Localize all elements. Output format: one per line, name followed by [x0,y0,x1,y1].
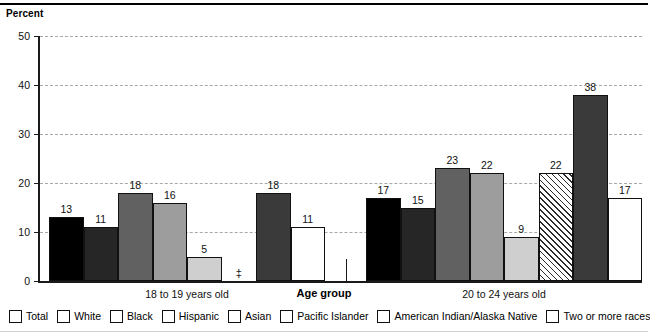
bar[interactable] [366,198,401,281]
bar-value-label: 17 [605,184,645,196]
bar-group-item: 17 [366,36,401,281]
legend-swatch-icon [228,310,241,323]
y-tick-label: 20 [0,178,30,188]
y-tick-label: 10 [0,227,30,237]
bar-group-item: 5 [187,36,222,281]
bar[interactable] [435,168,470,281]
y-tick-mark [34,232,39,233]
y-axis-line [38,36,40,283]
bar-group-item: 11 [291,36,326,281]
bar[interactable] [84,227,119,281]
bar-value-label: 9 [501,223,541,235]
chart-plot-area: 01020304050 131118165‡181117152322922381… [38,36,642,282]
bar-value-label: 16 [150,189,190,201]
y-tick-label: 0 [0,276,30,286]
y-tick-mark [34,85,39,86]
legend-label: Two or more races [563,310,650,323]
legend-swatch-icon [280,310,293,323]
bar-group-item: 22 [470,36,505,281]
legend-item[interactable]: Black [110,310,153,323]
legend-item[interactable]: American Indian/Alaska Native [377,310,537,323]
bar-group-item: 13 [49,36,84,281]
bar-value-label: 18 [253,179,293,191]
suppressed-marker: ‡ [219,267,259,279]
y-tick-mark [34,281,39,282]
bar-group-item: 16 [153,36,188,281]
legend-label: American Indian/Alaska Native [394,310,537,323]
bar-value-label: 11 [288,213,328,225]
bar-group-item: 18 [256,36,291,281]
bar-value-label: 5 [184,243,224,255]
legend-label: White [74,310,101,323]
bar[interactable] [153,203,188,281]
top-rule [0,3,648,5]
x-axis-line [38,281,642,283]
bar[interactable] [608,198,643,281]
bar-group-item: 38 [573,36,608,281]
legend-item[interactable]: Asian [228,310,271,323]
legend-label: Black [127,310,153,323]
legend-swatch-icon [9,310,22,323]
bar-group-item: 11 [84,36,119,281]
bar-value-label: 22 [467,159,507,171]
y-tick-label: 40 [0,80,30,90]
bar[interactable] [291,227,326,281]
x-axis-title: Age group [0,287,648,299]
bar[interactable] [401,208,436,282]
bar[interactable] [49,217,84,281]
chart-legend: TotalWhiteBlackHispanicAsianPacific Isla… [9,310,643,323]
y-tick-mark [34,183,39,184]
legend-label: Asian [245,310,271,323]
bar-group-item: ‡ [222,36,257,281]
legend-label: Hispanic [179,310,219,323]
bar-group-item: 9 [504,36,539,281]
bar[interactable] [256,193,291,281]
y-axis-title: Percent [6,8,43,19]
y-tick-label: 30 [0,129,30,139]
group-separator-tick [346,259,347,281]
legend-item[interactable]: Hispanic [162,310,219,323]
bar-value-label: 38 [570,81,610,93]
legend-item[interactable]: White [57,310,101,323]
legend-item[interactable]: Pacific Islander [280,310,368,323]
legend-swatch-icon [546,310,559,323]
bar-group-item: 23 [435,36,470,281]
bar[interactable] [187,257,222,282]
bar[interactable] [470,173,505,281]
bar[interactable] [504,237,539,281]
y-tick-mark [34,134,39,135]
bar-group-item: 17 [608,36,643,281]
bar-value-label: 11 [81,213,121,225]
y-tick-mark [34,36,39,37]
legend-swatch-icon [162,310,175,323]
legend-swatch-icon [377,310,390,323]
bar[interactable] [118,193,153,281]
legend-swatch-icon [110,310,123,323]
bar-value-label: 15 [398,194,438,206]
legend-label: Total [26,310,48,323]
bottom-rule [0,331,648,332]
bar-group-item: 22 [539,36,574,281]
legend-item[interactable]: Total [9,310,48,323]
legend-label: Pacific Islander [297,310,368,323]
bar-value-label: 22 [536,159,576,171]
y-tick-label: 50 [0,31,30,41]
legend-swatch-icon [57,310,70,323]
bar[interactable] [573,95,608,281]
bar[interactable] [539,173,574,281]
bar-group-item: 18 [118,36,153,281]
legend-item[interactable]: Two or more races [546,310,650,323]
bar-group-item: 15 [401,36,436,281]
